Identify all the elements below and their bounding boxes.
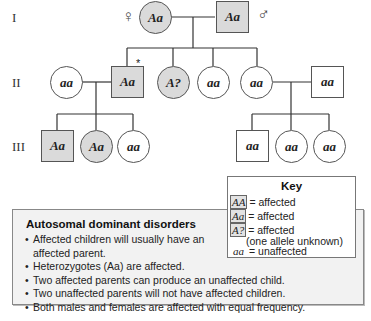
generation-label-i: I	[12, 10, 16, 26]
pedigree-diagram: I II III ♀ Aa Aa ♂ aa Aa * A? aa aa aa A…	[0, 0, 371, 321]
key-swatch-affected: AA	[230, 195, 247, 209]
pedigree-male-iii-1: Aa	[41, 130, 74, 162]
key-swatch-affected: Aa	[230, 209, 246, 223]
bullet-icon: •	[25, 233, 33, 247]
bullet-icon: •	[25, 287, 33, 301]
pedigree-male-ii-6: aa	[311, 66, 344, 98]
bullet-icon: •	[25, 301, 33, 315]
pedigree-female-iii-2: Aa	[80, 130, 113, 163]
pedigree-male-i-2: Aa	[216, 1, 249, 33]
pedigree-female-iii-5: aa	[275, 130, 308, 163]
pedigree-female-iii-6: aa	[313, 130, 346, 163]
info-item: •Two unaffected parents will not have af…	[25, 287, 305, 301]
pedigree-female-ii-5: aa	[240, 66, 273, 99]
key-swatch-unaffected: aa	[232, 245, 245, 257]
pedigree-female-ii-1: aa	[50, 66, 83, 99]
key-title: Key	[228, 180, 355, 192]
info-item: •Both males and females are affected wit…	[25, 301, 305, 315]
key-row-Aa: Aa = affected	[230, 209, 294, 223]
pedigree-female-ii-4: aa	[197, 66, 230, 99]
key-row-aa: aa = unaffected	[230, 245, 307, 257]
info-item: •Affected children will usually have an …	[25, 233, 238, 260]
info-item: •Two affected parents can produce an una…	[25, 274, 305, 288]
bullet-icon: •	[25, 274, 33, 288]
generation-label-ii: II	[12, 75, 21, 91]
pedigree-male-ii-2: Aa	[111, 66, 144, 98]
legend-key-box: Key AA = affected Aa = affected A? = aff…	[227, 176, 356, 258]
pedigree-female-iii-3: aa	[117, 130, 150, 163]
key-row-AA: AA = affected	[230, 195, 296, 209]
bullet-icon: •	[25, 260, 33, 274]
pedigree-female-ii-3: A?	[157, 66, 190, 99]
info-item: •Heterozygotes (Aa) are affected.	[25, 260, 305, 274]
pedigree-male-iii-4: aa	[236, 130, 269, 162]
key-swatch-affected: A?	[230, 223, 246, 237]
pedigree-female-i-1: Aa	[139, 1, 172, 34]
info-title: Autosomal dominant disorders	[26, 218, 196, 230]
female-symbol-icon: ♀	[122, 8, 135, 25]
male-symbol-icon: ♂	[257, 6, 270, 23]
proband-marker: *	[136, 57, 140, 69]
generation-label-iii: III	[12, 139, 25, 155]
